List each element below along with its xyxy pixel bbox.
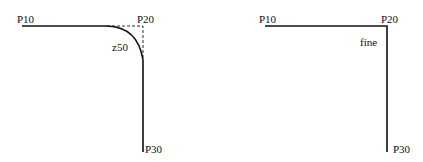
- right-label-fine: fine: [360, 37, 377, 48]
- right-label-p30: P30: [393, 144, 410, 155]
- path-drawing: [0, 0, 423, 162]
- right-label-p10: P10: [259, 14, 276, 25]
- left-label-p20: P20: [137, 14, 154, 25]
- left-label-p10: P10: [17, 14, 34, 25]
- right-label-p20: P20: [381, 14, 398, 25]
- left-label-z50: z50: [112, 42, 128, 53]
- diagram-canvas: P10 P20 z50 P30 P10 P20 fine P30: [0, 0, 423, 162]
- left-label-p30: P30: [145, 144, 162, 155]
